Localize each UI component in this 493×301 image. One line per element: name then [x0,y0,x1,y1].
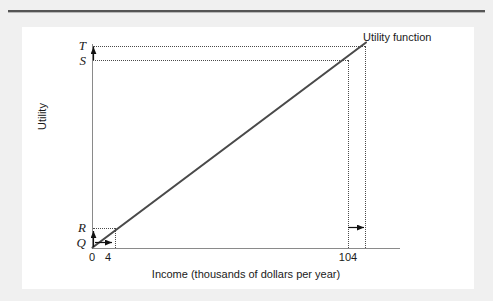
figure-page: T S R Q 0 4 104 Income (thousands of dol… [0,0,493,301]
guide-line-t-level [93,46,365,47]
guide-line-income-108 [365,46,366,248]
guide-line-income-4 [115,228,116,248]
x-axis-title: Income (thousands of dollars per year) [92,268,400,280]
x-tick-label-4: 4 [101,252,115,263]
y-tick-label-t: T [70,39,86,52]
guide-line-r-level [93,228,115,229]
y-axis-title: Utility [36,103,48,130]
y-tick-label-s: S [70,54,86,67]
x-tick-label-0: 0 [85,252,99,263]
plot-area: T S R Q 0 4 104 Income (thousands of dol… [0,0,493,301]
series-label-utility-function: Utility function [363,31,431,43]
guide-line-income-104 [348,60,349,248]
guide-line-s-level [93,60,348,61]
y-tick-label-r: R [70,221,86,234]
x-axis-line [92,248,400,249]
x-tick-label-104: 104 [333,252,363,263]
y-tick-label-q: Q [70,236,86,249]
y-axis-line [92,44,93,249]
